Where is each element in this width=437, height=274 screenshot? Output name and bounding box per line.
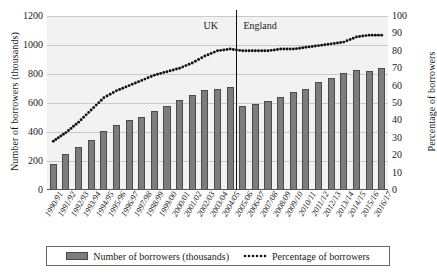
line-dot xyxy=(200,56,203,59)
line-dot xyxy=(109,93,112,96)
line-dot xyxy=(112,91,115,94)
y-axis-right-tick-label: 0 xyxy=(392,185,432,195)
line-dot xyxy=(229,48,232,51)
y-axis-right-tick-label: 70 xyxy=(392,63,432,73)
line-dot xyxy=(286,48,289,51)
line-dot xyxy=(210,52,213,55)
chart-legend: Number of borrowers (thousands) Percenta… xyxy=(46,246,390,266)
line-dot xyxy=(207,53,210,56)
line-dot xyxy=(238,49,241,52)
line-dot xyxy=(156,73,159,76)
y-axis-right-tick-label: 10 xyxy=(392,168,432,178)
line-dot xyxy=(159,72,162,75)
line-dot xyxy=(115,89,118,92)
line-dot xyxy=(279,48,282,51)
line-dot xyxy=(131,83,134,86)
y-axis-right-tick-label: 50 xyxy=(392,98,432,108)
line-dot xyxy=(143,78,146,81)
line-dot xyxy=(59,135,62,138)
y-axis-right-tick-label: 40 xyxy=(392,115,432,125)
line-dot xyxy=(361,35,364,38)
legend-bar-label: Number of borrowers (thousands) xyxy=(93,251,229,262)
line-dot xyxy=(54,138,57,141)
line-dot xyxy=(342,41,345,44)
line-dot xyxy=(219,49,222,52)
percentage-line-series xyxy=(47,16,388,190)
y-axis-right-tick-label: 80 xyxy=(392,46,432,56)
line-dot xyxy=(72,125,75,128)
line-dot xyxy=(241,49,244,52)
line-dot xyxy=(254,49,257,52)
line-dot xyxy=(67,129,70,132)
line-dot xyxy=(323,43,326,46)
line-dot xyxy=(188,63,191,66)
line-dot xyxy=(327,43,330,46)
line-dot xyxy=(97,101,100,104)
line-dot xyxy=(184,64,187,67)
line-dot xyxy=(244,49,247,52)
line-dot xyxy=(333,42,336,45)
line-dot xyxy=(128,84,131,87)
line-dot xyxy=(162,71,165,74)
legend-item-line: Percentage of borrowers xyxy=(243,251,370,262)
line-dot xyxy=(289,48,292,51)
line-dot xyxy=(178,67,181,70)
line-dot xyxy=(336,42,339,45)
line-dot xyxy=(320,44,323,47)
line-dot xyxy=(75,123,78,126)
line-dot xyxy=(140,79,143,82)
line-dot xyxy=(87,111,90,114)
region-label-uk: UK xyxy=(203,20,217,31)
line-dot xyxy=(62,133,65,136)
region-divider xyxy=(236,10,237,190)
line-dot xyxy=(270,49,273,52)
y-axis-left-tick-label: 800 xyxy=(3,69,43,79)
line-dot xyxy=(226,48,229,51)
line-dot xyxy=(169,69,172,72)
line-dot xyxy=(102,96,105,99)
line-dot xyxy=(124,85,127,88)
line-dot xyxy=(82,116,85,119)
legend-dotted-line-icon xyxy=(243,252,267,260)
y-axis-left-tick-label: 200 xyxy=(3,156,43,166)
line-dot xyxy=(194,60,197,63)
line-dot xyxy=(317,44,320,47)
line-dot xyxy=(374,34,377,37)
x-axis-ticks: 1990/911991/921992/931993/941994/951995/… xyxy=(47,190,388,246)
line-dot xyxy=(121,87,124,90)
line-dot xyxy=(314,45,317,48)
line-dot xyxy=(64,131,67,134)
plot-area: UK England xyxy=(47,16,388,190)
line-dot xyxy=(106,95,109,98)
line-dot xyxy=(172,68,175,71)
line-dot xyxy=(90,109,93,112)
line-dot xyxy=(166,70,169,73)
y-axis-right-tick-label: 60 xyxy=(392,81,432,91)
line-dot xyxy=(352,37,355,40)
y-axis-left-tick-label: 0 xyxy=(3,185,43,195)
line-dot xyxy=(213,51,216,54)
line-dot xyxy=(251,49,254,52)
line-dot xyxy=(191,62,194,65)
line-dot xyxy=(222,48,225,51)
y-axis-right-tick-label: 100 xyxy=(392,11,432,21)
line-dot xyxy=(260,49,263,52)
line-dot xyxy=(92,106,95,109)
line-dot xyxy=(134,82,137,85)
line-dot xyxy=(137,80,140,83)
line-dot xyxy=(203,55,206,58)
line-dot xyxy=(77,121,80,124)
y-axis-left-tick-label: 1200 xyxy=(3,11,43,21)
line-dot xyxy=(57,136,60,139)
line-dot xyxy=(147,76,150,79)
legend-line-label: Percentage of borrowers xyxy=(272,251,370,262)
line-dot xyxy=(263,49,266,52)
line-dot xyxy=(273,48,276,51)
line-dot xyxy=(380,34,383,37)
line-dot xyxy=(80,118,83,121)
y-axis-left-tick-label: 600 xyxy=(3,98,43,108)
line-dot xyxy=(70,127,73,130)
line-dot xyxy=(339,41,342,44)
line-dot xyxy=(292,48,295,51)
line-dot xyxy=(355,35,358,38)
